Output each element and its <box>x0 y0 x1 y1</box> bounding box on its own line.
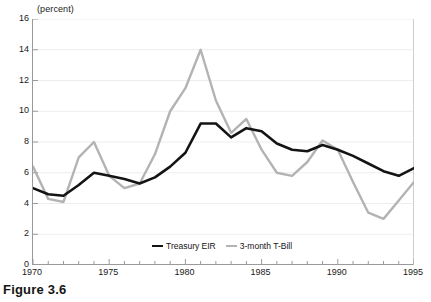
data-series-line <box>33 124 414 196</box>
legend-entry-3-month-t-bill: 3-month T-Bill <box>226 242 292 251</box>
y-axis-tick-label: 12 <box>3 76 29 85</box>
y-axis-tick-label: 16 <box>3 14 29 23</box>
legend-label: 3-month T-Bill <box>240 242 292 251</box>
y-axis-tick-label: 10 <box>3 106 29 115</box>
x-axis-tick-label: 1985 <box>251 268 271 277</box>
y-axis-tick-label: 8 <box>3 137 29 146</box>
y-axis-tick-labels: 0246810121416 <box>0 0 29 302</box>
y-axis-tick-label: 6 <box>3 168 29 177</box>
chart-lines-svg <box>33 19 414 265</box>
x-axis-tick-labels: 197019751980198519901995 <box>32 268 413 282</box>
chart-legend: Treasury EIR 3-month T-Bill <box>152 242 292 251</box>
x-axis-tick-label: 1975 <box>98 268 118 277</box>
x-axis-tick-label: 1995 <box>403 268 423 277</box>
x-axis-tick-label: 1980 <box>174 268 194 277</box>
legend-entry-treasury-eir: Treasury EIR <box>152 242 216 251</box>
x-axis-tick-label: 1990 <box>327 268 347 277</box>
y-axis-tick-label: 2 <box>3 229 29 238</box>
y-axis-unit-label: (percent) <box>37 4 74 14</box>
legend-line-swatch-icon <box>152 245 163 247</box>
figure-caption: Figure 3.6 <box>3 282 66 297</box>
y-axis-tick-label: 4 <box>3 199 29 208</box>
y-axis-tick-label: 14 <box>3 45 29 54</box>
legend-label: Treasury EIR <box>166 242 216 251</box>
legend-line-swatch-icon <box>226 245 237 247</box>
data-series-line <box>33 50 414 219</box>
x-axis-tick-label: 1970 <box>22 268 42 277</box>
figure-container: (percent) 0246810121416 1970197519801985… <box>0 0 431 302</box>
chart-plot-area <box>32 19 413 265</box>
